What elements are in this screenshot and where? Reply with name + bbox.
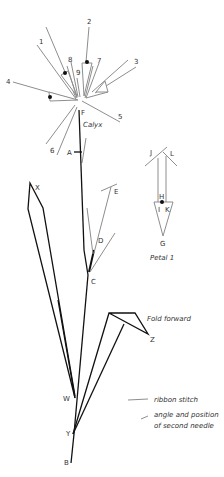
strand-label-3: 3: [134, 58, 138, 66]
legend-needle-line1: angle and position: [154, 411, 219, 419]
label-z: Z: [150, 336, 155, 344]
label-w: W: [63, 395, 70, 403]
petal-label-g: G: [160, 240, 165, 248]
petal-label-i: I: [158, 206, 160, 214]
left-leaf: [28, 183, 75, 398]
strand-label-2: 2: [87, 18, 91, 26]
fold-forward-note: Fold forward: [147, 315, 191, 323]
petal-diagram: [145, 147, 177, 236]
calyx-title: Calyx: [83, 121, 103, 129]
label-a: A: [67, 149, 72, 157]
ribbon-stitch-swatch: [128, 399, 148, 400]
legend-ribbon-stitch: ribbon stitch: [154, 396, 198, 404]
label-x: X: [35, 184, 40, 192]
label-b: B: [64, 459, 69, 467]
strand-label-6: 6: [50, 147, 55, 155]
label-e: E: [114, 188, 118, 196]
strand-label-5: 5: [118, 113, 122, 121]
petal-label-h: H: [159, 193, 164, 201]
ribbon-embroidery-diagram: 1 2 3 4 5 6 7 8 9 F Calyx A E D C X W Y …: [0, 0, 224, 477]
strand-label-8: 8: [68, 56, 72, 64]
legend-needle-line2: of second needle: [154, 422, 214, 430]
label-y: Y: [65, 430, 71, 438]
calyx-center-label: F: [81, 109, 85, 117]
petal-label-j: J: [149, 149, 152, 157]
right-leaf: [73, 313, 148, 434]
needle-angle-swatch: [141, 416, 148, 419]
strand-label-4: 4: [6, 78, 11, 86]
strand-label-1: 1: [39, 38, 43, 46]
label-c: C: [91, 278, 96, 286]
calyx-group: [13, 27, 136, 163]
strand-label-7: 7: [97, 57, 101, 65]
petal-title: Petal 1: [150, 254, 174, 262]
petal-label-l: L: [170, 150, 174, 158]
legend: ribbon stitch angle and position of seco…: [128, 396, 219, 430]
label-d: D: [98, 237, 103, 245]
strand-label-9: 9: [76, 69, 80, 77]
petal-label-k: K: [165, 206, 170, 214]
